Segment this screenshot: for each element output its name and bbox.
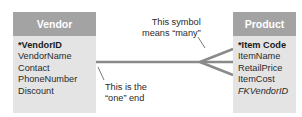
vendor-entity-title: Vendor xyxy=(13,12,96,36)
product-entity-title: Product xyxy=(233,12,296,36)
product-entity: Product *Item Code ItemName RetailPrice … xyxy=(233,12,296,113)
crows-foot-upper-prong xyxy=(200,49,233,62)
one-annotation-line1: This is the xyxy=(105,82,147,93)
vendor-field: Discount xyxy=(18,86,96,97)
vendor-entity: Vendor *VendorID VendorName Contact Phon… xyxy=(13,12,96,113)
many-annotation-line1: This symbol xyxy=(142,17,201,28)
vendor-field: Contact xyxy=(18,63,96,74)
one-annotation-line2: “one” end xyxy=(105,93,147,104)
one-annotation: This is the “one” end xyxy=(105,82,147,104)
product-field: ItemName xyxy=(238,51,296,62)
product-field-foreign-key: FKVendorID xyxy=(238,86,296,97)
product-field-primary-key: *Item Code xyxy=(238,40,296,51)
vendor-field: PhoneNumber xyxy=(18,74,96,85)
many-annotation: This symbol means “many” xyxy=(142,17,201,39)
product-field: RetailPrice xyxy=(238,63,296,74)
vendor-field: VendorName xyxy=(18,51,96,62)
crows-foot-lower-prong xyxy=(200,62,233,75)
product-fields: *Item Code ItemName RetailPrice ItemCost… xyxy=(233,36,296,97)
vendor-field-primary-key: *VendorID xyxy=(18,40,96,51)
one-callout-pointer xyxy=(98,67,104,80)
product-field: ItemCost xyxy=(238,74,296,85)
vendor-fields: *VendorID VendorName Contact PhoneNumber… xyxy=(13,36,96,97)
many-annotation-line2: means “many” xyxy=(142,28,201,39)
